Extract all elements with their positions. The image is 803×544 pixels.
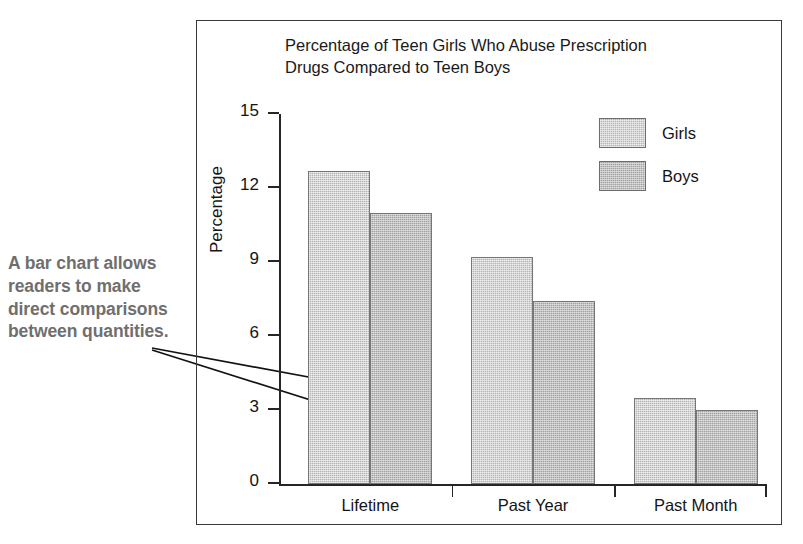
y-tick: 15 [268,112,279,114]
bar-girls-past-month [634,398,696,484]
x-category-label: Lifetime [341,496,399,515]
y-tick-label: 3 [250,397,259,417]
y-tick: 3 [268,408,279,410]
y-tick-label: 6 [250,323,259,343]
y-axis-title: Percentage [207,166,227,253]
x-axis-line [279,484,767,486]
x-category-label: Past Year [498,496,569,515]
chart-figure-frame: Percentage of Teen Girls Who Abuse Presc… [196,20,782,525]
y-tick-label: 9 [250,249,259,269]
chart-title-line-2: Drugs Compared to Teen Boys [285,57,705,79]
y-tick-label: 15 [240,101,259,121]
x-tick [765,484,767,497]
x-tick [614,484,616,497]
y-tick: 0 [268,482,279,484]
bar-boys-lifetime [370,213,432,484]
bar-girls-lifetime [308,171,370,484]
y-tick-label: 0 [250,471,259,491]
x-tick [452,484,454,497]
y-tick-label: 12 [240,175,259,195]
bar-boys-past-month [696,410,758,484]
y-tick: 6 [268,334,279,336]
x-category-label: Past Month [654,496,737,515]
annotation-callout: A bar chart allows readers to make direc… [8,252,188,343]
chart-title-line-1: Percentage of Teen Girls Who Abuse Presc… [285,35,705,57]
y-tick: 12 [268,186,279,188]
bar-girls-past-year [471,257,533,484]
y-axis-line [279,114,281,484]
plot-area: 03691215 LifetimePast YearPast Month [279,114,767,484]
bar-boys-past-year [533,301,595,484]
chart-title: Percentage of Teen Girls Who Abuse Presc… [285,35,705,79]
y-tick: 9 [268,260,279,262]
